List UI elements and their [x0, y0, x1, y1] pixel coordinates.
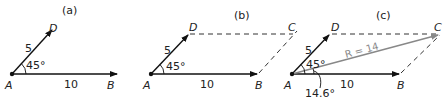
magnitude-ab-label: 10 [200, 78, 214, 91]
point-d-label: D [331, 21, 339, 34]
point-c-label: C [288, 21, 296, 34]
magnitude-ab-label: 10 [64, 78, 78, 91]
angle-arc [160, 65, 164, 75]
point-a-label: A [283, 79, 292, 92]
point-b-label: B [255, 79, 263, 92]
point-a-label: A [4, 79, 13, 92]
resultant-angle-label: 14.6° [305, 87, 335, 100]
panel-a: (a) 45° 5 10 A B D [4, 4, 117, 92]
panel-c-title: (c) [376, 9, 391, 22]
point-a-dot [290, 72, 294, 76]
dashed-bc [401, 35, 440, 73]
dashed-bc [259, 31, 297, 73]
point-d-label: D [189, 21, 197, 34]
angle-label: 45° [306, 58, 326, 71]
magnitude-ad-label: 5 [164, 44, 171, 57]
point-a-label: A [142, 79, 151, 92]
point-a-dot [10, 72, 14, 76]
panel-c: (c) 45° 5 10 R = 14 14.6° A B D C [283, 9, 442, 100]
point-b-label: B [397, 79, 405, 92]
point-a-dot [149, 72, 153, 76]
point-d-label: D [49, 22, 57, 35]
angle-label: 45° [26, 59, 46, 72]
panel-b-title: (b) [234, 9, 250, 22]
magnitude-ad-label: 5 [25, 42, 32, 55]
point-c-label: C [434, 21, 442, 34]
resultant-label: R = 14 [344, 40, 380, 60]
panel-a-title: (a) [62, 4, 77, 17]
angle-arc-45 [301, 65, 305, 75]
panel-b: (b) 45° 5 10 A B D C [142, 9, 297, 92]
magnitude-ad-label: 5 [305, 44, 312, 57]
magnitude-ab-label: 10 [340, 78, 354, 91]
angle-label: 45° [166, 60, 186, 73]
vector-addition-diagram: (a) 45° 5 10 A B D (b) 45° 5 10 A B D C … [0, 0, 448, 100]
point-b-label: B [107, 79, 115, 92]
